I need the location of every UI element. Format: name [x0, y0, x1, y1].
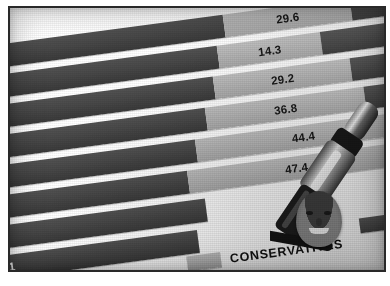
portrait-cutout: [296, 191, 342, 247]
bar-value-label: 29.2: [270, 71, 295, 86]
bar-value-label: 14.3: [257, 43, 282, 58]
chart-photograph: 29.6 2 14.3 23 29.2: [8, 6, 386, 272]
nose: [316, 218, 322, 226]
bar-segment-other: 17: [350, 50, 386, 81]
eye-left: [306, 211, 313, 215]
bar-value-label: 29.6: [275, 10, 300, 25]
bar-left-value: 42.1: [8, 260, 16, 272]
eye-right: [324, 211, 331, 215]
bar-segment-other: [350, 6, 386, 21]
legend-swatch-conservatives: [186, 252, 222, 271]
mouth: [309, 228, 329, 234]
bar-segment-other: 23: [320, 20, 386, 54]
